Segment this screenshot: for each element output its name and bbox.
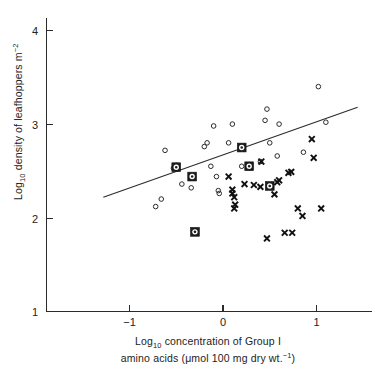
data-point-cross [242, 181, 248, 187]
data-point-boxed-circle [172, 163, 181, 172]
data-point-circle [205, 141, 210, 146]
x-title-sub: 10 [153, 341, 162, 350]
svg-text:Log10 density of leafhoppers m: Log10 density of leafhoppers m−2 [11, 43, 27, 200]
x-axis-title-line2: amino acids (μmol 100 mg dry wt.−1) [121, 351, 296, 364]
data-point-circle [163, 148, 168, 153]
data-point-circle [267, 141, 272, 146]
data-point-circle [217, 191, 222, 196]
data-point-circle [316, 84, 321, 89]
data-point-circle [216, 188, 221, 193]
data-point-cross [318, 206, 324, 212]
data-point-cross [264, 236, 270, 242]
x-tick-label-1: 1 [313, 316, 319, 328]
x-title2-post: ) [292, 352, 296, 364]
data-point-circle [209, 164, 214, 169]
data-point-circle [277, 122, 282, 127]
data-point-cross [272, 191, 278, 197]
y-title-sub: 10 [18, 173, 27, 182]
data-point-circle [159, 197, 164, 202]
y-axis-ticks [47, 31, 54, 312]
boxed-marker-square [245, 162, 254, 171]
x-axis-title-line1: Log10 concentration of Group I [135, 335, 281, 350]
data-point-boxed-circle [237, 143, 246, 152]
data-point-cross [251, 182, 257, 188]
data-point-circle [230, 122, 235, 127]
x-title2-sup: −1 [283, 351, 292, 360]
data-point-cross [300, 213, 306, 219]
boxed-marker-square [172, 163, 181, 172]
x-tick-label-neg1: −1 [123, 316, 136, 328]
data-point-circle [214, 174, 219, 179]
data-point-circle [239, 164, 244, 169]
y-title-sup: −2 [11, 43, 20, 52]
data-point-cross [309, 136, 315, 142]
x-title-log: Log [135, 335, 153, 347]
data-point-circle [180, 182, 185, 187]
y-title-rest: density of leafhoppers m [12, 52, 24, 173]
x-title2-mid: mol 100 mg dry wt. [191, 352, 282, 364]
data-point-boxed-circle [265, 182, 274, 191]
data-point-circle [265, 107, 270, 112]
data-point-boxed-circle [188, 172, 197, 181]
y-tick-label-2: 2 [32, 213, 38, 225]
data-point-boxed-circle [245, 162, 254, 171]
data-point-circle [153, 204, 158, 209]
y-tick-label-1: 1 [32, 306, 38, 318]
regression-trend-line [103, 107, 357, 197]
x-title2-pre: amino acids ( [121, 352, 186, 364]
plot-canvas: 4 3 2 1 −1 0 1 Log10 density of leafhopp… [0, 0, 375, 372]
data-point-boxed-circle [191, 227, 200, 236]
x-tick-label-0: 0 [220, 316, 226, 328]
scatter-plot-figure: 4 3 2 1 −1 0 1 Log10 density of leafhopp… [0, 0, 375, 372]
data-point-cross [311, 155, 317, 161]
y-tick-label-3: 3 [32, 119, 38, 131]
x-axis-ticks [130, 305, 317, 312]
data-point-cross [282, 230, 288, 236]
y-title-log: Log [12, 182, 24, 200]
data-point-circle [263, 118, 268, 123]
data-point-circle [275, 154, 280, 159]
data-point-circle [211, 124, 216, 129]
data-point-circle [189, 186, 194, 191]
data-point-cross [226, 174, 232, 180]
y-axis-title: Log10 density of leafhoppers m−2 [11, 43, 27, 200]
data-point-cross [295, 206, 301, 212]
x-title-rest: concentration of Group I [162, 335, 281, 347]
boxed-marker-square [237, 143, 246, 152]
data-point-circle [324, 120, 329, 125]
data-point-circle [301, 150, 306, 155]
y-tick-label-4: 4 [32, 25, 38, 37]
data-point-cross [258, 184, 264, 190]
data-point-cross [229, 187, 235, 193]
data-point-cross [289, 230, 295, 236]
data-point-circle [226, 141, 231, 146]
boxed-marker-square [265, 182, 274, 191]
boxed-marker-square [188, 172, 197, 181]
boxed-marker-square [191, 227, 200, 236]
data-point-cross [276, 177, 282, 183]
caption-strip [0, 365, 375, 372]
